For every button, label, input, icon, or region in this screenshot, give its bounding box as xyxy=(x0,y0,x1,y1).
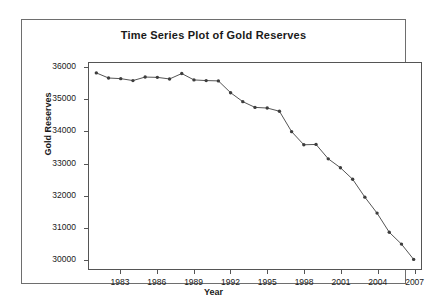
data-point-marker xyxy=(388,231,391,234)
plot-area xyxy=(88,62,422,270)
data-point-marker xyxy=(278,110,281,113)
data-point-marker xyxy=(217,79,220,82)
data-point-marker xyxy=(119,77,122,80)
data-point-marker xyxy=(314,143,317,146)
data-point-marker xyxy=(204,79,207,82)
x-tick-label: 1995 xyxy=(247,277,287,287)
data-point-marker xyxy=(363,195,366,198)
x-tick-mark xyxy=(194,270,195,274)
x-tick-label: 2007 xyxy=(395,277,427,287)
x-tick-label: 1992 xyxy=(210,277,250,287)
data-point-marker xyxy=(375,211,378,214)
data-point-marker xyxy=(192,78,195,81)
x-tick-label: 1989 xyxy=(174,277,214,287)
data-point-marker xyxy=(95,71,98,74)
data-point-marker xyxy=(180,72,183,75)
x-tick-label: 1983 xyxy=(100,277,140,287)
data-point-marker xyxy=(241,100,244,103)
x-tick-mark xyxy=(304,270,305,274)
series-polyline xyxy=(96,73,413,260)
x-tick-mark xyxy=(267,270,268,274)
data-point-marker xyxy=(400,242,403,245)
data-point-marker xyxy=(156,76,159,79)
x-tick-mark xyxy=(415,270,416,274)
x-tick-mark xyxy=(157,270,158,274)
data-series-line xyxy=(89,63,421,269)
data-point-marker xyxy=(253,106,256,109)
data-point-marker xyxy=(266,106,269,109)
x-tick-mark xyxy=(230,270,231,274)
x-tick-mark xyxy=(378,270,379,274)
data-point-marker xyxy=(290,130,293,133)
x-tick-mark xyxy=(120,270,121,274)
data-point-marker xyxy=(302,143,305,146)
data-point-marker xyxy=(339,166,342,169)
x-tick-label: 1986 xyxy=(137,277,177,287)
data-point-marker xyxy=(131,79,134,82)
data-point-marker xyxy=(351,178,354,181)
data-point-marker xyxy=(107,76,110,79)
data-point-marker xyxy=(327,157,330,160)
x-axis-title: Year xyxy=(22,287,405,297)
data-point-marker xyxy=(168,77,171,80)
chart-frame: Time Series Plot of Gold Reserves Gold R… xyxy=(21,19,406,284)
data-point-marker xyxy=(229,91,232,94)
x-tick-label: 2001 xyxy=(321,277,361,287)
data-point-marker xyxy=(412,258,415,261)
x-tick-label: 2004 xyxy=(358,277,398,287)
x-tick-label: 1998 xyxy=(284,277,324,287)
x-tick-mark xyxy=(341,270,342,274)
data-point-marker xyxy=(143,75,146,78)
